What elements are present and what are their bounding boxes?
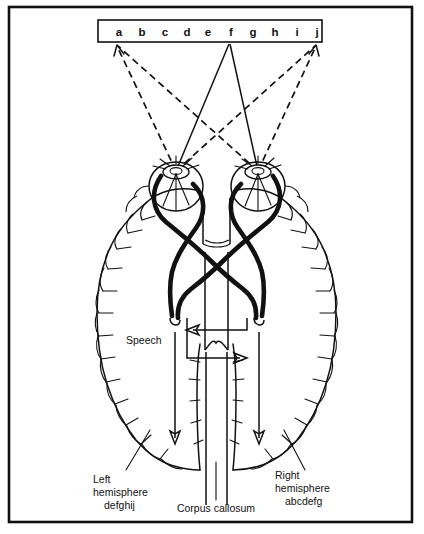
right-eye-orbit-detail-2 xyxy=(297,196,308,212)
right-hemisphere-outline xyxy=(233,189,336,470)
letter-j: j xyxy=(314,26,318,38)
visual-projection-arrows xyxy=(170,332,264,444)
letter-g: g xyxy=(249,26,256,38)
sight-lines-dashed xyxy=(117,46,316,171)
left-hemisphere-label: Left hemisphere defghij xyxy=(93,473,148,511)
letter-e: e xyxy=(205,26,211,38)
letter-f: f xyxy=(229,26,233,38)
letter-h: h xyxy=(271,26,278,38)
sightline-left-eye-to-f xyxy=(176,44,229,171)
sightline-right-eye-to-a xyxy=(118,46,258,171)
figure-canvas: a b c d e f g h i j xyxy=(0,0,424,534)
sightline-right-eye-to-f xyxy=(230,44,258,171)
figure-border xyxy=(9,7,412,522)
optic-chiasm xyxy=(154,176,280,325)
sightline-arrowheads xyxy=(114,45,319,56)
left-hemisphere-label-line3: defghij xyxy=(104,499,135,511)
sightline-left-eye-to-a xyxy=(117,46,176,171)
corpus-callosum-structure xyxy=(203,198,230,505)
speech-label: Speech xyxy=(126,334,162,346)
letter-i: i xyxy=(295,26,298,38)
right-hemisphere-label-line1: Right xyxy=(275,469,300,481)
left-eye-orbit-detail-2 xyxy=(126,196,137,212)
transfer-arrow-right-to-left-shaft xyxy=(193,318,247,330)
right-hemisphere-label-line3: abcdefg xyxy=(285,495,323,507)
left-hemisphere-outline xyxy=(97,189,200,470)
split-brain-diagram: a b c d e f g h i j xyxy=(0,0,424,534)
corpus-callosum-label: Corpus callosum xyxy=(177,502,255,514)
left-hemisphere-label-line1: Left xyxy=(93,473,111,485)
right-hemisphere-label-line2: hemisphere xyxy=(275,482,330,494)
sightline-left-eye-to-j xyxy=(176,46,315,171)
letter-a: a xyxy=(116,26,123,38)
transfer-arrow-left-to-right-shaft xyxy=(187,318,240,358)
right-hemisphere-label: Right hemisphere abcdefg xyxy=(275,469,330,507)
letter-b: b xyxy=(138,26,145,38)
letter-d: d xyxy=(183,26,190,38)
right-cortex-sulci xyxy=(265,216,334,459)
callosal-transfer-arrows xyxy=(186,318,247,363)
sightline-right-eye-to-j xyxy=(258,46,316,171)
letter-c: c xyxy=(162,26,169,38)
left-hemisphere-label-line2: hemisphere xyxy=(93,486,148,498)
